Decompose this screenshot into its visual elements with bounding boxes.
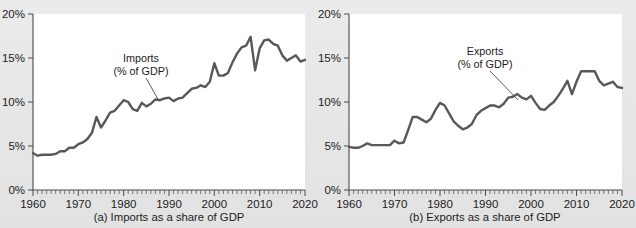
exports-caption: (b) Exports as a share of GDP — [409, 211, 560, 223]
exports-chart-svg: 0%5%10%15%20% 19601970198019902000201020… — [318, 0, 636, 228]
imports-y-tick-label: 15% — [2, 52, 25, 64]
exports-x-tick-label: 2000 — [518, 198, 544, 210]
exports-y-tick-label: 10% — [318, 96, 341, 108]
imports-x-tick-label: 2020 — [292, 198, 318, 210]
exports-annotation-line1: Exports — [467, 45, 504, 57]
imports-y-tick-label: 10% — [2, 96, 25, 108]
exports-x-tick-labels: 1960197019801990200020102020 — [336, 198, 635, 210]
imports-x-tick-label: 2000 — [202, 198, 228, 210]
imports-y-tick-label: 0% — [8, 184, 25, 196]
imports-x-tick-label: 1980 — [111, 198, 137, 210]
imports-y-tick-label: 20% — [2, 8, 25, 20]
imports-y-tick-label: 5% — [8, 140, 25, 152]
imports-chart-svg: 0%5%10%15%20% 19601970198019902000201020… — [0, 0, 318, 228]
exports-x-tick-label: 1970 — [382, 198, 408, 210]
imports-annotation-line2: (% of GDP) — [113, 65, 168, 77]
figure-container: 0%5%10%15%20% 19601970198019902000201020… — [0, 0, 636, 228]
imports-x-tick-labels: 1960197019801990200020102020 — [20, 198, 318, 210]
exports-y-tick-label: 0% — [324, 184, 341, 196]
exports-x-tick-label: 2010 — [564, 198, 590, 210]
imports-x-tick-label: 2010 — [247, 198, 273, 210]
chart-panel-imports: 0%5%10%15%20% 19601970198019902000201020… — [0, 0, 318, 228]
exports-y-tick-label: 15% — [318, 52, 341, 64]
exports-y-tick-label: 5% — [324, 140, 341, 152]
chart-panel-exports: 0%5%10%15%20% 19601970198019902000201020… — [318, 0, 636, 228]
imports-caption: (a) Imports as a share of GDP — [94, 211, 245, 223]
exports-x-tick-label: 1980 — [427, 198, 453, 210]
exports-plot-area — [349, 14, 622, 190]
imports-x-tick-label: 1990 — [156, 198, 182, 210]
imports-y-ticks — [28, 14, 33, 190]
exports-x-tick-label: 1960 — [336, 198, 362, 210]
exports-y-ticks — [344, 14, 349, 190]
exports-x-tick-label: 1990 — [473, 198, 499, 210]
imports-annotation-line1: Imports — [123, 52, 160, 64]
exports-x-tick-label: 2020 — [609, 198, 635, 210]
imports-y-tick-labels: 0%5%10%15%20% — [2, 8, 25, 196]
imports-x-tick-label: 1970 — [66, 198, 92, 210]
exports-y-tick-labels: 0%5%10%15%20% — [318, 8, 341, 196]
imports-x-tick-label: 1960 — [20, 198, 46, 210]
exports-y-tick-label: 20% — [318, 8, 341, 20]
exports-annotation-line2: (% of GDP) — [457, 58, 512, 70]
